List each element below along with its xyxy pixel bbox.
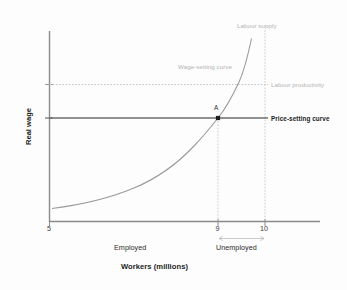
y-axis-title: Real wage: [24, 97, 33, 157]
x-tick-label-5: 5: [47, 224, 51, 233]
chart-canvas: [0, 0, 347, 290]
labour-supply-label: Labour supply: [237, 22, 277, 29]
labour-productivity-label: Labour productivity: [271, 81, 324, 88]
x-tick-label-10: 10: [260, 224, 268, 233]
x-axis-title: Workers (millions): [121, 262, 188, 271]
unemployed-span-label: Unemployed: [216, 243, 257, 252]
point-a-marker: [216, 116, 220, 120]
wage-setting-curve-label: Wage-setting curve: [178, 63, 232, 70]
economics-chart: Labour supply Wage-setting curve Labour …: [0, 0, 347, 290]
x-tick-label-9: 9: [216, 224, 220, 233]
point-a-label: A: [214, 104, 218, 111]
price-setting-curve-label: Price-setting curve: [271, 115, 330, 122]
employed-span-label: Employed: [114, 243, 146, 252]
